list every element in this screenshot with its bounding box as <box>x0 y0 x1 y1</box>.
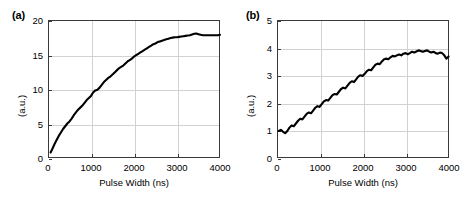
y-axis-tick-label: 3 <box>245 70 272 81</box>
y-axis-tick-label: 2 <box>245 97 272 108</box>
panel-a: (a) Pulse Width (ns) (a.u.) 051015200100… <box>0 0 237 199</box>
panel-b: (b) Pulse Width (ns) (a.u.) 012345010002… <box>237 0 474 199</box>
panel-a-x-axis-title: Pulse Width (ns) <box>48 177 220 188</box>
x-axis-tick-label: 0 <box>274 162 279 173</box>
y-axis-tick-label: 15 <box>16 49 43 60</box>
y-axis-tick-label: 0 <box>16 153 43 164</box>
y-axis-tick-label: 5 <box>245 15 272 26</box>
y-axis-tick-label: 20 <box>16 15 43 26</box>
x-axis-tick-label: 0 <box>45 162 50 173</box>
figure-two-panel-plot: (a) Pulse Width (ns) (a.u.) 051015200100… <box>0 0 474 199</box>
x-axis-tick-label: 3000 <box>395 162 416 173</box>
x-axis-tick-label: 2000 <box>352 162 373 173</box>
y-axis-tick-label: 0 <box>245 153 272 164</box>
y-axis-tick-label: 4 <box>245 42 272 53</box>
x-axis-tick-label: 3000 <box>166 162 187 173</box>
x-axis-tick-label: 2000 <box>123 162 144 173</box>
x-axis-tick-label: 1000 <box>309 162 330 173</box>
y-axis-tick-label: 10 <box>16 84 43 95</box>
x-axis-tick-label: 1000 <box>80 162 101 173</box>
panel-b-x-axis-title: Pulse Width (ns) <box>277 177 449 188</box>
y-axis-tick-label: 5 <box>16 118 43 129</box>
x-axis-tick-label: 4000 <box>438 162 459 173</box>
x-axis-tick-label: 4000 <box>209 162 230 173</box>
panel-a-y-axis-title: (a.u.) <box>16 95 27 117</box>
y-axis-tick-label: 1 <box>245 125 272 136</box>
